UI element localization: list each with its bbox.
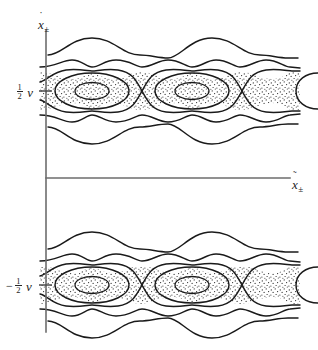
lower-stipple-layer bbox=[40, 266, 300, 304]
y-tick-label-lower-fraction: 1 2 bbox=[15, 277, 21, 295]
upper-stipple-layer bbox=[40, 72, 300, 110]
y-tick-label-lower: − 1 2 v bbox=[6, 277, 32, 295]
y-tick-label-upper-numerator: 1 bbox=[17, 83, 23, 92]
lower-outer-passing-contour-top bbox=[48, 232, 298, 252]
y-tick-label-lower-denominator: 2 bbox=[15, 286, 21, 295]
y-axis-label-base-stack: ̇ x bbox=[38, 13, 44, 31]
y-tick-label-upper-fraction: 1 2 bbox=[17, 83, 23, 101]
lower-separatrix-outer-top bbox=[40, 254, 300, 262]
x-axis-label: ˜ x ± bbox=[292, 168, 303, 191]
y-axis-label: ̇ x ± bbox=[38, 8, 49, 31]
upper-island-chain bbox=[40, 38, 318, 144]
y-tick-label-upper-denominator: 2 bbox=[17, 92, 23, 101]
x-axis-label-base: x bbox=[292, 178, 298, 191]
y-axis-label-base: x bbox=[38, 18, 44, 31]
figure-root: ̇ x ± ˜ x ± 1 2 v − 1 2 bbox=[0, 0, 318, 350]
y-axis-label-subscript: ± bbox=[44, 25, 49, 34]
y-tick-label-lower-numerator: 1 bbox=[15, 277, 21, 286]
upper-outer-passing-contour-top bbox=[48, 38, 298, 58]
y-tick-label-upper-variable: v bbox=[27, 86, 33, 99]
lower-separatrix-outer-bottom bbox=[40, 308, 300, 316]
lower-outer-passing-contour-bottom bbox=[48, 318, 298, 338]
x-axis-label-subscript: ± bbox=[298, 185, 303, 194]
phase-space-diagram-canvas bbox=[0, 0, 318, 350]
upper-stipple-fill bbox=[40, 72, 300, 110]
lower-island-chain bbox=[40, 232, 318, 338]
y-tick-label-upper: 1 2 v bbox=[14, 83, 33, 101]
lower-stipple-fill bbox=[40, 266, 300, 304]
y-tick-label-lower-variable: v bbox=[26, 280, 32, 293]
x-axis-label-glyphs: ˜ x ± bbox=[292, 173, 303, 191]
x-axis-label-base-stack: ˜ x bbox=[292, 173, 298, 191]
upper-separatrix-outer-bottom bbox=[40, 114, 300, 122]
y-axis-label-glyphs: ̇ x ± bbox=[38, 13, 49, 31]
upper-separatrix-outer-top bbox=[40, 60, 300, 68]
y-tick-label-lower-sign: − bbox=[6, 280, 13, 292]
upper-outer-passing-contour-bottom bbox=[48, 124, 298, 144]
